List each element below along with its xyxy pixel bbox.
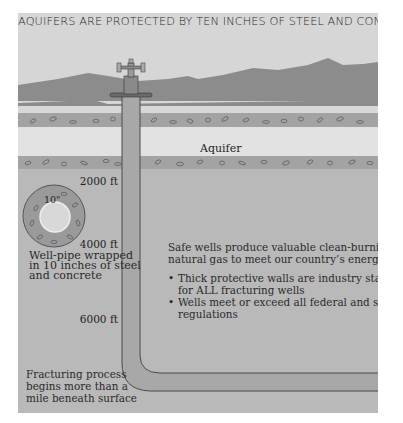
diagram-panel: AQUIFERS ARE PROTECTED BY TEN INCHES OF … xyxy=(18,13,378,413)
bullet-item: Thick protective walls are industry stan… xyxy=(168,272,378,296)
strata-illustration xyxy=(18,13,378,413)
main-description: Safe wells produce valuable clean-burnin… xyxy=(168,241,378,320)
intro-line-1: Safe wells produce valuable clean-burnin… xyxy=(168,241,378,253)
intro-line-2: natural gas to meet our country’s energy… xyxy=(168,253,378,265)
fracturing-note: Fracturing process begins more than a mi… xyxy=(26,368,137,404)
upper-rock-band xyxy=(18,113,378,127)
surface-ridge xyxy=(18,58,378,103)
bullet-item: Wells meet or exceed all federal and sta… xyxy=(168,296,378,320)
diagram-title: AQUIFERS ARE PROTECTED BY TEN INCHES OF … xyxy=(18,15,378,28)
lower-rock-band xyxy=(18,156,378,169)
cross-section-caption: Well-pipe wrapped in 10 inches of steel … xyxy=(29,251,141,281)
thickness-label: 10" xyxy=(44,194,60,206)
aquifer-label: Aquifer xyxy=(200,143,241,155)
benefit-list: Thick protective walls are industry stan… xyxy=(168,272,378,320)
depth-marker-2000: 2000 ft xyxy=(58,175,118,187)
depth-marker-6000: 6000 ft xyxy=(58,313,118,325)
aquifer-layer xyxy=(18,127,378,157)
